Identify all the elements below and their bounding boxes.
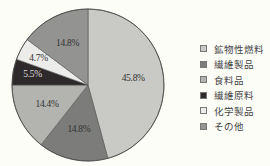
slice-value-label: 14.8% [67,124,90,134]
legend-label: その他 [214,119,244,133]
legend-swatch-icon [200,107,207,114]
legend-item-chemical-products: 化学製品 [200,103,264,119]
legend-item-other: その他 [200,119,264,135]
legend-swatch-icon [200,92,207,99]
legend-label: 鉱物性燃料 [214,42,264,56]
legend-swatch-icon [200,123,207,130]
legend-swatch-icon [200,45,207,52]
chart-legend: 鉱物性燃料 繊維製品 食料品 繊維原料 化学製品 その他 [200,41,264,134]
legend-label: 食料品 [214,73,244,87]
slice-value-label: 14.8% [56,38,79,48]
pie-chart: 45.8%14.8%14.4%5.5%4.7%14.8% [0,0,180,166]
legend-item-mineral-fuel: 鉱物性燃料 [200,41,264,57]
legend-swatch-icon [200,76,207,83]
slice-value-label: 14.4% [35,99,58,109]
legend-item-textile-products: 繊維製品 [200,57,264,73]
pie-chart-svg: 45.8%14.8%14.4%5.5%4.7%14.8% [0,0,180,166]
legend-label: 繊維製品 [214,57,254,71]
slice-value-label: 45.8% [122,73,145,83]
legend-item-foodstuffs: 食料品 [200,72,264,88]
legend-swatch-icon [200,61,207,68]
legend-label: 繊維原料 [214,88,254,102]
legend-label: 化学製品 [214,104,254,118]
slice-value-label: 4.7% [29,53,48,63]
legend-item-textile-materials: 繊維原料 [200,88,264,104]
slice-value-label: 5.5% [23,69,42,79]
